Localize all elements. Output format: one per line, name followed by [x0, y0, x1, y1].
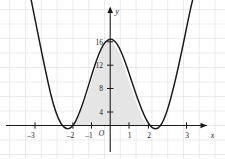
x-tick-label-1: 1 [128, 131, 132, 140]
x-tick-label-neg1: –1 [84, 131, 93, 140]
x-tick-label-neg3: –3 [26, 131, 35, 140]
x-tick-label-3: 3 [185, 131, 189, 140]
y-tick-label-16: 16 [96, 38, 104, 47]
x-tick-label-neg2: –2 [66, 131, 75, 140]
y-tick-label-12: 12 [96, 61, 104, 70]
quartic-function-plot: –3 –2 –1 1 2 3 4 8 12 16 O x y [0, 0, 225, 159]
y-axis-label: y [114, 7, 119, 16]
chart-figure: –3 –2 –1 1 2 3 4 8 12 16 O x y [0, 0, 225, 159]
y-tick-label-4: 4 [99, 108, 103, 117]
origin-label: O [99, 129, 105, 138]
x-axis-label: x [210, 131, 215, 140]
x-tick-label-2: 2 [147, 131, 151, 140]
y-tick-label-8: 8 [99, 84, 103, 93]
